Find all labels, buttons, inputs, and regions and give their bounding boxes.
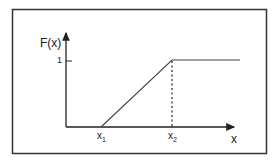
x-tick-label-x2: x2 (168, 131, 177, 143)
y-tick-label-1: 1 (57, 56, 62, 65)
y-axis-label: F(x) (40, 37, 61, 49)
frame (13, 10, 267, 154)
x-axis-label: x (231, 133, 237, 145)
x1-subscript: 1 (102, 136, 106, 143)
x2-subscript: 2 (173, 136, 177, 143)
x-tick-label-x1: x1 (97, 131, 106, 143)
cdf-line (101, 60, 240, 127)
